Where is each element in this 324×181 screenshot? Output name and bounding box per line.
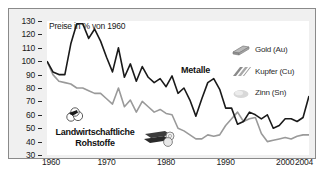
y-tick-mark — [38, 75, 42, 76]
copper-wire-icon — [231, 66, 251, 78]
y-tick-mark — [38, 155, 42, 156]
axis-title: Preise in % von 1960 — [49, 21, 125, 31]
agri-group-label: Landwirtschaftliche Rohstoffe — [45, 127, 145, 149]
legend-item-gold[interactable]: Gold (Au) — [255, 45, 287, 54]
timber-logs-icon — [141, 128, 177, 150]
metalle-group-label: Metalle — [181, 65, 210, 75]
y-tick-mark — [38, 21, 42, 22]
x-tick-label: 1980 — [151, 157, 181, 167]
y-tick-mark — [38, 34, 42, 35]
x-tick-label: 1960 — [36, 157, 66, 167]
y-tick-mark — [38, 48, 42, 49]
y-tick-mark — [38, 61, 42, 62]
chart-figure: Preise in % von 1960 1301201101009080706… — [8, 8, 316, 159]
agri-label-line2: Rohstoffe — [75, 138, 114, 148]
y-tick-mark — [38, 101, 42, 102]
y-tick-mark — [38, 115, 42, 116]
y-tick-label: 30 — [13, 150, 35, 160]
legend-item-zinn[interactable]: Zinn (Sn) — [255, 88, 286, 97]
y-tick-mark — [38, 88, 42, 89]
y-tick-label: 100 — [13, 56, 35, 66]
legend-item-kupfer[interactable]: Kupfer (Cu) — [255, 67, 294, 76]
y-tick-label: 40 — [13, 137, 35, 147]
y-tick-label: 50 — [13, 123, 35, 133]
x-tick-label: 2004 — [289, 157, 319, 167]
y-tick-label: 130 — [13, 16, 35, 26]
y-tick-label: 90 — [13, 70, 35, 80]
y-tick-label: 80 — [13, 83, 35, 93]
y-tick-label: 120 — [13, 29, 35, 39]
x-tick-label: 1970 — [92, 157, 122, 167]
x-tick-label: 1990 — [211, 157, 241, 167]
y-tick-label: 60 — [13, 110, 35, 120]
tin-blob-icon — [232, 88, 250, 100]
y-tick-mark — [38, 142, 42, 143]
gold-bar-icon — [231, 44, 251, 56]
y-tick-label: 70 — [13, 96, 35, 106]
y-tick-mark — [38, 128, 42, 129]
y-tick-label: 110 — [13, 43, 35, 53]
agri-label-line1: Landwirtschaftliche — [56, 127, 135, 137]
cotton-plant-icon — [64, 105, 88, 123]
